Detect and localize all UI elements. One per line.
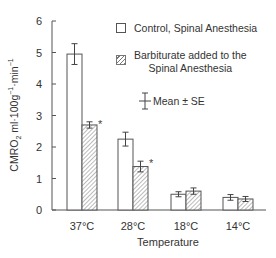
y-tick-label: 2: [36, 141, 42, 153]
errorbar-icon: [138, 91, 152, 111]
bar-chart-plot: 012345637°C28°C18°C14°C **: [0, 0, 276, 258]
x-tick-label: 14°C: [226, 220, 251, 232]
y-tick-label: 0: [36, 204, 42, 216]
chart: 012345637°C28°C18°C14°C ** CMRO2 ml·100g…: [0, 0, 276, 258]
bar: [82, 125, 97, 210]
y-tick-label: 4: [36, 78, 42, 90]
bar: [133, 167, 148, 210]
significance-marker: *: [149, 157, 154, 169]
y-tick-label: 6: [36, 15, 42, 27]
hatched-bar-swatch-icon: [116, 55, 126, 65]
significance-marker: *: [98, 118, 103, 130]
bar: [67, 54, 82, 210]
y-tick-label: 1: [36, 173, 42, 185]
x-axis-label: Temperature: [0, 236, 276, 248]
y-tick-label: 5: [36, 47, 42, 59]
open-bar-swatch-icon: [116, 23, 126, 33]
x-tick-label: 37°C: [70, 220, 95, 232]
bar: [118, 139, 133, 210]
y-tick-label: 3: [36, 110, 42, 122]
x-tick-label: 28°C: [121, 220, 146, 232]
x-tick-label: 18°C: [174, 220, 199, 232]
y-axis-label: CMRO2 ml·100g−1·min−1: [7, 35, 21, 195]
